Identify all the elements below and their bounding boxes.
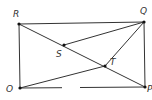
label-R: R [13,9,19,19]
segment-RQ [19,22,144,24]
point-O [18,86,21,89]
label-P: P [147,84,152,94]
segments [19,22,145,88]
segment-RO [19,24,20,88]
point-R [17,22,20,25]
labels: R Q O P S T [6,6,152,94]
label-S: S [56,49,62,59]
segment-gap-P [80,87,145,88]
point-Q [142,20,145,23]
segment-SQ [64,22,144,45]
geometry-diagram: R Q O P S T [0,0,152,100]
label-Q: Q [140,6,147,16]
segment-QP [144,22,145,87]
point-T [103,64,106,67]
label-T: T [110,57,117,67]
point-S [62,43,65,46]
segment-RP [19,24,145,87]
segment-OT [20,66,105,88]
label-O: O [6,84,13,94]
